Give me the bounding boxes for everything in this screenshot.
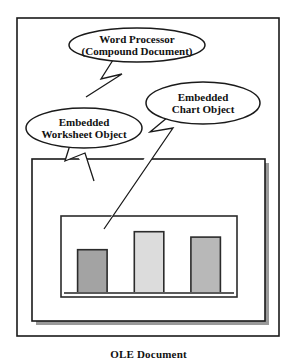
bar-1	[78, 250, 108, 293]
callout-line1-word-processor: Word Processor	[99, 33, 174, 45]
bar-3	[191, 237, 221, 293]
figure-caption: OLE Document	[0, 348, 297, 360]
callout-line2-embedded-worksheet-object: Worksheet Object	[41, 128, 127, 140]
bar-2	[134, 232, 164, 293]
figure-canvas: Word Processor(Compound Document)Embedde…	[0, 0, 297, 363]
callout-line1-embedded-chart-object: Embedded	[178, 91, 229, 103]
callout-line2-word-processor: (Compound Document)	[82, 45, 193, 58]
callout-line1-embedded-worksheet-object: Embedded	[59, 116, 110, 128]
ole-document-figure: Word Processor(Compound Document)Embedde…	[0, 0, 297, 363]
callout-line2-embedded-chart-object: Chart Object	[172, 103, 235, 115]
